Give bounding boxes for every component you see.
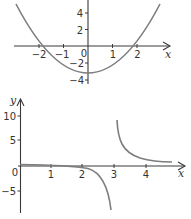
top-xtick-neg2: −2 (32, 49, 47, 60)
bottom-origin-label: 0 (12, 167, 18, 178)
parabola-graph: −2 −1 0 1 2 x 4 2 −2 −4 (14, 0, 172, 86)
top-ytick-neg2: −2 (69, 58, 84, 69)
top-ytick-2: 2 (77, 25, 83, 36)
bottom-ytick-neg5: −5 (1, 186, 16, 197)
bottom-x-axis-label: x (178, 167, 185, 180)
top-xtick-1: 1 (110, 49, 116, 60)
bottom-ytick-5: 5 (10, 135, 16, 146)
bottom-xtick-1: 1 (48, 169, 54, 180)
hyperbola-graph: 1 2 3 4 0 x y 10 5 −5 (1, 94, 185, 213)
bottom-xtick-2: 2 (79, 169, 85, 180)
top-ytick-neg4: −4 (69, 75, 84, 86)
top-x-axis-label: x (165, 48, 172, 61)
bottom-y-axis-label: y (9, 94, 17, 107)
hyperbola-left-branch (20, 165, 111, 211)
graphs-canvas: −2 −1 0 1 2 x 4 2 −2 −4 1 2 3 4 0 x y (0, 0, 191, 219)
bottom-ytick-10: 10 (3, 111, 16, 122)
top-ytick-4: 4 (77, 8, 83, 19)
bottom-xtick-3: 3 (111, 169, 117, 180)
bottom-xtick-4: 4 (143, 169, 149, 180)
top-xtick-2: 2 (134, 49, 140, 60)
hyperbola-right-branch (117, 120, 172, 162)
top-xtick-neg1: −1 (55, 49, 70, 60)
